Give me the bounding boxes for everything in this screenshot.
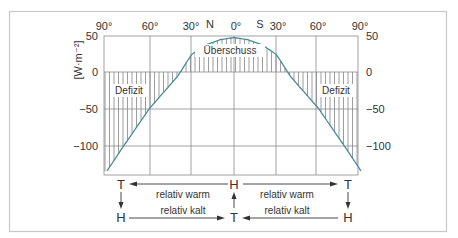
x-tick-90n: 90° <box>96 20 113 32</box>
deficit-left-label: Defizit <box>115 85 143 96</box>
warm-right-label: relativ warm <box>260 189 314 200</box>
right-bottom-letter: H <box>343 210 352 225</box>
y-axis-label: [W·m⁻²] <box>72 41 84 80</box>
y-tick-right-0: 0 <box>366 66 372 78</box>
x-tick-30s: 30° <box>270 20 287 32</box>
y-tick-right-neg100: −100 <box>366 140 391 152</box>
deficit-right-label: Defizit <box>322 85 350 96</box>
left-bottom-letter: H <box>116 210 125 225</box>
circulation-diagram: T H H T T H relativ warm relativ warm re… <box>116 177 352 225</box>
x-tick-60s: 60° <box>310 20 327 32</box>
warm-left-label: relativ warm <box>156 189 210 200</box>
y-tick-left-neg100: −100 <box>73 140 98 152</box>
cold-left-label: relativ kalt <box>160 205 205 216</box>
center-top-letter: H <box>229 177 238 192</box>
radiation-balance-chart: 90° 60° 30° N 0° S 30° 60° 90° 50 0 −50 … <box>0 0 458 238</box>
right-top-letter: T <box>344 177 352 192</box>
y-tick-right-neg50: −50 <box>366 103 385 115</box>
left-top-letter: T <box>117 177 125 192</box>
y-tick-left-50: 50 <box>86 30 98 42</box>
y-tick-right-50: 50 <box>366 30 378 42</box>
x-tick-60n: 60° <box>142 20 159 32</box>
hatch-fill <box>105 38 357 171</box>
south-label: S <box>256 18 263 30</box>
surplus-label: Überschuss <box>204 45 257 56</box>
center-bottom-letter: T <box>230 210 238 225</box>
x-tick-0: 0° <box>231 20 242 32</box>
cold-right-label: relativ kalt <box>264 205 309 216</box>
north-label: N <box>206 18 214 30</box>
x-tick-30n: 30° <box>183 20 200 32</box>
y-tick-left-0: 0 <box>92 66 98 78</box>
y-tick-left-neg50: −50 <box>79 103 98 115</box>
